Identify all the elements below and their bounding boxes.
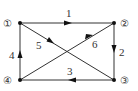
arrow-up-icon: [18, 50, 23, 58]
node-2: ②: [112, 18, 129, 29]
node-label-3: ③: [120, 75, 129, 86]
arrow-down-icon: [112, 45, 117, 53]
edge-label-4: 4: [9, 49, 15, 61]
edge-label-5: 5: [36, 39, 42, 51]
node-label-4: ④: [3, 75, 12, 86]
arrow-right-icon: [64, 21, 72, 26]
node-label-2: ②: [120, 18, 129, 29]
edge-4: 4: [9, 23, 23, 80]
graph-diagram: 1 2 3 4 5 6 ① ② ③ ④: [0, 0, 138, 91]
edge-3: 3: [20, 65, 114, 83]
edge-label-6: 6: [92, 38, 98, 50]
edge-2: 2: [112, 23, 125, 80]
node-4: ④: [3, 75, 22, 86]
node-label-1: ①: [3, 18, 12, 29]
node-1: ①: [3, 18, 22, 29]
edge-1: 1: [20, 7, 114, 26]
arrow-diagonal-down-icon: [47, 37, 55, 44]
edge-label-3: 3: [67, 65, 73, 77]
arrow-left-icon: [68, 78, 76, 83]
node-3: ③: [112, 75, 129, 86]
edge-label-2: 2: [119, 46, 125, 58]
edge-label-1: 1: [66, 7, 72, 19]
